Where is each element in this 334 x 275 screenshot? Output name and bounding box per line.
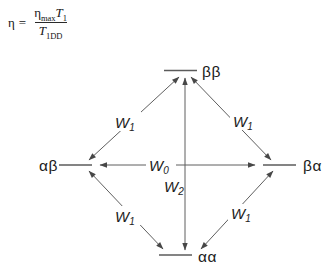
state-label-ab: αβ — [39, 157, 58, 174]
state-label-aa: αα — [198, 248, 217, 265]
figure-canvas: η= ηmaxT1 T1DD W0 W2 — [0, 0, 334, 275]
energy-level-diagram: W0 W2 W1 W1 W1 W1 ββ αβ βα αα — [0, 0, 334, 275]
state-label-bb: ββ — [202, 63, 221, 80]
state-label-ba: βα — [303, 157, 322, 174]
